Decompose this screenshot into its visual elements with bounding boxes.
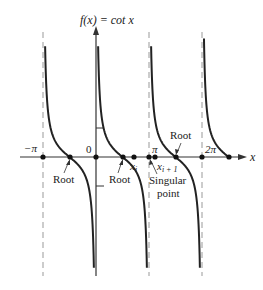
axis-points bbox=[40, 154, 231, 159]
root-label-3: Root bbox=[170, 129, 191, 141]
cot-plot: f(x) = cot x x −π 0 π 2π xi xi + 1 Root … bbox=[0, 0, 263, 290]
point-xi bbox=[131, 154, 136, 159]
y-axis-label: f(x) = cot x bbox=[80, 13, 134, 27]
tick-zero: 0 bbox=[86, 143, 92, 155]
xi-label: xi bbox=[129, 160, 137, 174]
root-arrowhead-3-icon bbox=[175, 149, 179, 155]
tick-2pi: 2π bbox=[205, 143, 217, 155]
branch-4 bbox=[204, 38, 228, 157]
y-axis-arrow-icon bbox=[93, 26, 99, 35]
point-neg-pi bbox=[40, 154, 45, 159]
point-root-2 bbox=[120, 154, 125, 159]
root-arrowhead-2-icon bbox=[119, 159, 123, 165]
x-axis-arrow-icon bbox=[238, 154, 247, 160]
root-arrowhead-1-icon bbox=[66, 159, 70, 165]
point-root-4 bbox=[226, 154, 231, 159]
singular-label-line2: point bbox=[157, 187, 180, 199]
point-pi bbox=[146, 154, 151, 159]
cot-curve bbox=[45, 38, 228, 267]
root-label-1: Root bbox=[53, 173, 74, 185]
tick-pi: π bbox=[152, 143, 158, 155]
point-root-1 bbox=[67, 154, 72, 159]
x-axis-label: x bbox=[249, 150, 256, 164]
point-xi1 bbox=[152, 154, 157, 159]
point-origin bbox=[93, 154, 98, 159]
point-root-3 bbox=[173, 154, 178, 159]
xi1-label: xi + 1 bbox=[156, 160, 178, 174]
singular-label-line1: Singular bbox=[149, 174, 187, 186]
root-label-2: Root bbox=[109, 173, 130, 185]
point-2pi bbox=[199, 154, 204, 159]
tick-neg-pi: −π bbox=[24, 142, 37, 154]
singular-arrowhead-icon bbox=[149, 159, 153, 165]
